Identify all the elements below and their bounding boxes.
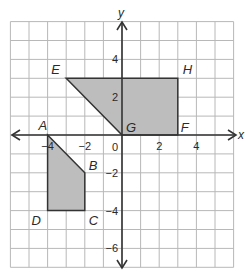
vertex-label-g: G (126, 120, 136, 135)
x-tick-label: −2 (79, 140, 92, 152)
vertex-label-c: C (89, 213, 99, 228)
y-tick-label: −2 (105, 167, 118, 179)
vertex-label-e: E (51, 62, 60, 77)
vertex-label-h: H (183, 62, 193, 77)
vertex-label-f: F (181, 120, 190, 135)
coordinate-plane: y x 0 −4−22442−2−4−6 ABCDEHFG (0, 0, 245, 279)
y-axis-label: y (117, 6, 125, 20)
x-tick-label: −4 (41, 140, 54, 152)
vertex-label-a: A (38, 118, 48, 133)
y-tick-label: −4 (105, 205, 118, 217)
x-tick-label: 4 (193, 140, 199, 152)
vertex-label-d: D (32, 213, 41, 228)
origin-label: 0 (112, 141, 118, 153)
y-tick-label: 4 (112, 53, 118, 65)
x-axis-label: x (237, 128, 245, 142)
x-tick-label: 2 (156, 140, 162, 152)
y-tick-label: −6 (105, 242, 118, 254)
vertex-label-b: B (89, 158, 98, 173)
y-tick-label: 2 (112, 91, 118, 103)
